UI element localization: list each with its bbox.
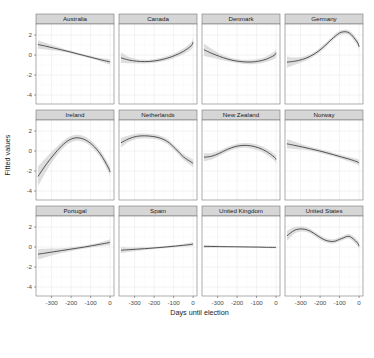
x-tick-label: -100 — [167, 299, 180, 306]
facet-strip-label: Ireland — [66, 111, 85, 118]
y-tick-label: -2 — [26, 263, 32, 270]
y-tick-label: 2 — [29, 127, 33, 134]
facet-panel: Portugal — [36, 206, 114, 296]
x-tick-label: -100 — [333, 299, 346, 306]
facet-panel: Spain — [119, 206, 197, 296]
y-axis-title: Fitted values — [3, 134, 12, 175]
y-tick-label: 0 — [29, 147, 33, 154]
facet-panel: Germany — [285, 14, 363, 104]
facet-strip-label: New Zealand — [223, 111, 260, 118]
facet-panel: Ireland — [36, 110, 114, 200]
y-tick-label: -2 — [26, 71, 32, 78]
y-tick-label: -4 — [26, 91, 32, 98]
facet-panel: Canada — [119, 14, 197, 104]
facet-strip-label: United Kingdom — [219, 207, 263, 214]
facet-panel: Denmark — [202, 14, 280, 104]
facet-panel: United States — [285, 206, 363, 296]
x-tick-label: -300 — [294, 299, 307, 306]
y-tick-label: 2 — [29, 31, 33, 38]
x-tick-label: -100 — [84, 299, 97, 306]
y-tick-label: 2 — [29, 223, 33, 230]
faceted-line-chart: AustraliaCanadaDenmarkGermanyIrelandNeth… — [0, 0, 374, 358]
facet-panel: United Kingdom — [202, 206, 280, 296]
x-tick-label: -200 — [314, 299, 327, 306]
facet-panel: Australia — [36, 14, 114, 104]
y-tick-label: -2 — [26, 167, 32, 174]
x-tick-label: 0 — [274, 299, 278, 306]
y-tick-label: -4 — [26, 283, 32, 290]
facet-strip-label: Canada — [147, 15, 169, 22]
x-tick-label: -200 — [231, 299, 244, 306]
x-tick-label: -200 — [65, 299, 78, 306]
facet-panel: New Zealand — [202, 110, 280, 200]
facet-strip-label: Spain — [150, 207, 166, 214]
facet-strip-label: United States — [305, 207, 342, 214]
facet-strip-label: Germany — [311, 15, 337, 22]
facet-strip-label: Netherlands — [141, 111, 174, 118]
facet-panel: Norway — [285, 110, 363, 200]
x-tick-label: -300 — [211, 299, 224, 306]
chart-canvas: AustraliaCanadaDenmarkGermanyIrelandNeth… — [0, 0, 374, 358]
y-tick-label: -4 — [26, 187, 32, 194]
facet-strip-label: Australia — [63, 15, 88, 22]
x-tick-label: 0 — [108, 299, 112, 306]
x-tick-label: 0 — [357, 299, 361, 306]
y-tick-label: 0 — [29, 51, 33, 58]
x-axis-title: Days until election — [170, 308, 228, 317]
facet-panel: Netherlands — [119, 110, 197, 200]
facet-strip-label: Denmark — [228, 15, 254, 22]
facet-strip-label: Norway — [314, 111, 336, 118]
facet-strip-label: Portugal — [63, 207, 86, 214]
x-tick-label: -300 — [45, 299, 58, 306]
x-tick-label: 0 — [191, 299, 195, 306]
y-tick-label: 0 — [29, 243, 33, 250]
x-tick-label: -100 — [250, 299, 263, 306]
x-tick-label: -300 — [128, 299, 141, 306]
x-tick-label: -200 — [148, 299, 161, 306]
